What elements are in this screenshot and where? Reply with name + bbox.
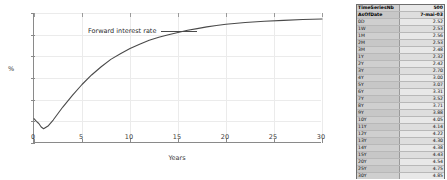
tenor-label-cell[interactable]: 0D [357,19,400,26]
rate-value-cell[interactable]: 4.05 [400,117,444,124]
rate-table: TimeSeriesNb500AsOfDate7-mai-030D2.521W2… [357,5,444,179]
tenor-label-cell[interactable]: 10Y [357,117,400,124]
x-tick-label: 25 [269,133,277,141]
tenor-label-cell[interactable]: 20Y [357,159,400,166]
rate-value-cell[interactable]: 4.85 [400,173,444,180]
x-tick-label: 30 [317,133,325,141]
rate-value-cell[interactable]: 3.52 [400,96,444,103]
x-axis-title: Years [168,154,185,162]
rate-value-cell[interactable]: 2.42 [400,61,444,68]
table-row[interactable]: 0D2.52 [357,19,444,26]
rate-value-cell[interactable]: 3.00 [400,75,444,82]
table-header-value[interactable]: 7-mai-03 [400,12,444,19]
rate-value-cell[interactable]: 3.07 [400,82,444,89]
rate-value-cell[interactable]: 3.71 [400,103,444,110]
table-row[interactable]: 8Y3.71 [357,103,444,110]
rate-value-cell[interactable]: 4.38 [400,145,444,152]
table-row[interactable]: 3M2.48 [357,47,444,54]
table-row[interactable]: 5Y3.07 [357,82,444,89]
plot-area: Forward interest rate [33,13,321,143]
table-row[interactable]: 7Y3.52 [357,96,444,103]
table-row[interactable]: 6Y3.31 [357,89,444,96]
tenor-label-cell[interactable]: 2Y [357,61,400,68]
rate-value-cell[interactable]: 2.53 [400,26,444,33]
table-row[interactable]: 25Y4.75 [357,166,444,173]
table-row[interactable]: 1W2.53 [357,26,444,33]
table-row[interactable]: 2Y2.42 [357,61,444,68]
table-row[interactable]: 12Y4.22 [357,131,444,138]
x-tick-top [322,13,323,17]
rate-value-cell[interactable]: 4.30 [400,138,444,145]
x-tick-label: 15 [173,133,181,141]
gridline-vertical [322,13,323,142]
tenor-label-cell[interactable]: 15Y [357,152,400,159]
x-tick-label: 0 [31,133,35,141]
rate-value-cell[interactable]: 2.53 [400,40,444,47]
table-header-label[interactable]: AsOfDate [357,12,400,19]
rate-value-cell[interactable]: 4.75 [400,166,444,173]
x-tick-label: 20 [221,133,229,141]
legend-label: Forward interest rate [88,27,156,35]
rate-value-cell[interactable]: 2.70 [400,68,444,75]
rate-value-cell[interactable]: 2.48 [400,47,444,54]
tenor-label-cell[interactable]: 6Y [357,89,400,96]
table-row[interactable]: 20Y4.54 [357,159,444,166]
rate-value-cell[interactable]: 4.43 [400,152,444,159]
table-row[interactable]: 3Y2.70 [357,68,444,75]
tenor-label-cell[interactable]: 3Y [357,68,400,75]
table-row[interactable]: 4Y3.00 [357,75,444,82]
tenor-label-cell[interactable]: 30Y [357,173,400,180]
table-row[interactable]: 10Y4.05 [357,117,444,124]
tenor-label-cell[interactable]: 4Y [357,75,400,82]
table-row[interactable]: 15Y4.43 [357,152,444,159]
x-tick-label: 5 [79,133,83,141]
rate-value-cell[interactable]: 3.31 [400,89,444,96]
tenor-label-cell[interactable]: 25Y [357,166,400,173]
tenor-label-cell[interactable]: 1M [357,33,400,40]
table-header-row[interactable]: AsOfDate7-mai-03 [357,12,444,19]
tenor-label-cell[interactable]: 8Y [357,103,400,110]
table-row[interactable]: 2M2.53 [357,40,444,47]
rate-value-cell[interactable]: 4.22 [400,131,444,138]
y-tick [31,143,35,144]
rate-table-panel[interactable]: TimeSeriesNb500AsOfDate7-mai-030D2.521W2… [356,4,445,179]
table-row[interactable]: 30Y4.85 [357,173,444,180]
rate-value-cell[interactable]: 4.14 [400,124,444,131]
rate-value-cell[interactable]: 2.32 [400,54,444,61]
tenor-label-cell[interactable]: 13Y [357,138,400,145]
table-row[interactable]: 1Y2.32 [357,54,444,61]
tenor-label-cell[interactable]: 1Y [357,54,400,61]
tenor-label-cell[interactable]: 5Y [357,82,400,89]
table-row[interactable]: 1M2.56 [357,33,444,40]
forward-rate-chart: % Years Forward interest rate 22.533.544… [0,0,330,179]
tenor-label-cell[interactable]: 12Y [357,131,400,138]
table-row[interactable]: 14Y4.38 [357,145,444,152]
y-axis-title: % [8,65,14,73]
tenor-label-cell[interactable]: 11Y [357,124,400,131]
legend-line-swatch [161,31,197,32]
table-row[interactable]: 9Y3.88 [357,110,444,117]
tenor-label-cell[interactable]: 3M [357,47,400,54]
tenor-label-cell[interactable]: 9Y [357,110,400,117]
x-tick-label: 10 [125,133,133,141]
tenor-label-cell[interactable]: 14Y [357,145,400,152]
rate-value-cell[interactable]: 4.54 [400,159,444,166]
tenor-label-cell[interactable]: 2M [357,40,400,47]
tenor-label-cell[interactable]: 7Y [357,96,400,103]
table-row[interactable]: 13Y4.30 [357,138,444,145]
rate-value-cell[interactable]: 2.52 [400,19,444,26]
rate-value-cell[interactable]: 3.88 [400,110,444,117]
rate-value-cell[interactable]: 2.56 [400,33,444,40]
table-row[interactable]: 11Y4.14 [357,124,444,131]
chart-legend: Forward interest rate [88,27,197,35]
tenor-label-cell[interactable]: 1W [357,26,400,33]
